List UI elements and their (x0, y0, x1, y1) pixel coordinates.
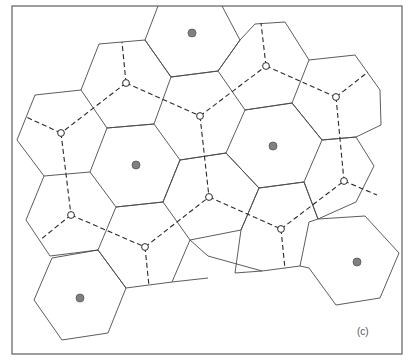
node-i (278, 226, 285, 233)
node-g (142, 244, 149, 251)
node-h (206, 194, 213, 201)
node-c (197, 113, 204, 120)
cell-edges (17, 6, 399, 340)
site-dot (269, 142, 277, 150)
site-dot (132, 161, 140, 169)
site-dot (76, 294, 84, 302)
node-e (333, 94, 340, 101)
node-a (123, 80, 130, 87)
node-f (68, 212, 75, 219)
node-j (341, 178, 348, 185)
site-dot (188, 29, 196, 37)
dashed-links (26, 23, 377, 286)
node-d (263, 63, 270, 70)
figure-label: (c) (357, 326, 369, 337)
hexagonal-cell-diagram (0, 0, 414, 360)
site-dot (353, 258, 361, 266)
node-b (58, 130, 65, 137)
